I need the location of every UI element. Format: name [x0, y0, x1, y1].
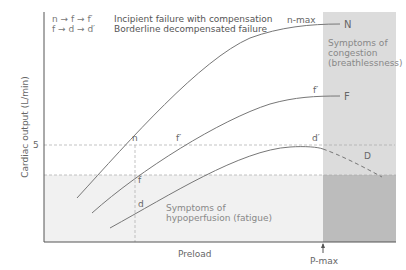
p-max-label: P-max [310, 256, 338, 266]
point-F-label: F [344, 92, 350, 102]
congestion-label-line: (breathlessness) [328, 58, 403, 68]
point-f-prime-top-label: f′ [313, 85, 318, 95]
overlap-region [323, 175, 396, 242]
hypoperfusion-label-line: hypoperfusion (fatigue) [166, 213, 272, 223]
congestion-region [323, 12, 396, 175]
point-f-label: f [138, 175, 141, 185]
legend-description: Incipient failure with compensation [114, 14, 273, 24]
point-d-prime-label: d′ [312, 133, 320, 143]
y-tick-5: 5 [33, 140, 39, 150]
legend-description: Borderline decompensated failure [114, 24, 267, 34]
x-axis-label: Preload [178, 249, 212, 259]
hypoperfusion-label-line: Symptoms of [166, 203, 272, 213]
n-max-label: n-max [287, 15, 316, 25]
point-D-label: D [364, 151, 371, 161]
congestion-label: Symptoms of congestion (breathlessness) [328, 38, 403, 68]
legend-item: n → f → f′ Incipient failure with compen… [52, 14, 273, 24]
legend-key: n → f → f′ [52, 14, 108, 24]
point-f-prime-label: f′ [176, 133, 181, 143]
congestion-label-line: Symptoms of [328, 38, 403, 48]
point-d-label: d [138, 199, 144, 209]
legend-item: f → d → d′ Borderline decompensated fail… [52, 24, 273, 34]
point-N-label: N [344, 20, 351, 30]
congestion-label-line: congestion [328, 48, 403, 58]
legend: n → f → f′ Incipient failure with compen… [52, 14, 273, 34]
hypoperfusion-label: Symptoms of hypoperfusion (fatigue) [166, 203, 272, 223]
point-n-label: n [132, 133, 138, 143]
y-axis-label: Cardiac output (L/min) [20, 72, 30, 182]
p-max-arrowhead-icon [321, 243, 325, 248]
curve-normal [77, 24, 340, 198]
legend-key: f → d → d′ [52, 24, 108, 34]
